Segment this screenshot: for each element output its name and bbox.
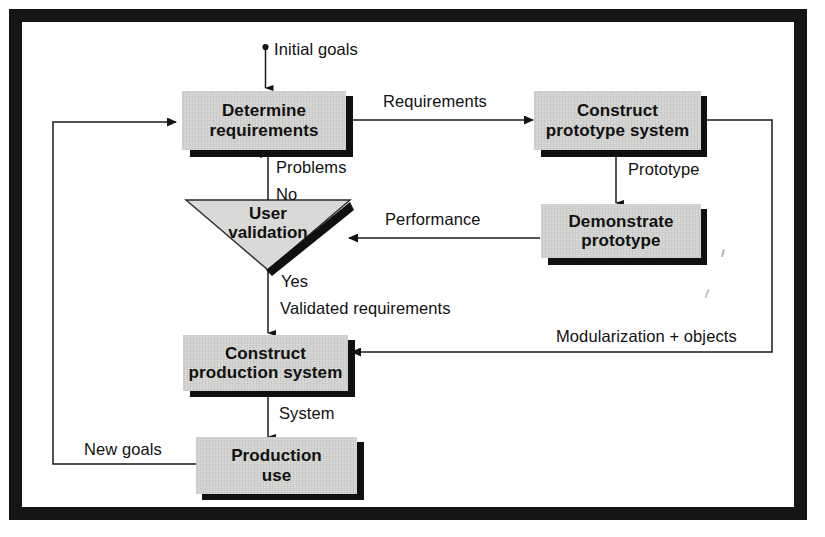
determine-requirements-line2: requirements [210, 121, 319, 140]
node-construct-prototype-system[interactable]: Construct prototype system [534, 91, 701, 150]
node-production-use-label: Production use [227, 446, 326, 484]
node-construct-prototype-system-label: Construct prototype system [542, 101, 693, 139]
construct-prototype-shadow-right [700, 96, 707, 157]
construct-prototype-line2: prototype system [546, 121, 689, 140]
demonstrate-prototype-line1: Demonstrate [568, 212, 673, 231]
edge-label-new-goals: New goals [84, 440, 162, 459]
determine-requirements-shadow-right [346, 96, 353, 157]
edge-label-problems: Problems [276, 158, 347, 177]
edge-label-validated-requirements: Validated requirements [280, 299, 451, 318]
production-use-shadow [202, 493, 364, 500]
construct-production-line2: production system [189, 363, 343, 382]
node-user-validation-label: User validation [186, 204, 350, 242]
construct-production-shadow [190, 390, 355, 397]
construct-prototype-shadow [541, 150, 707, 157]
demonstrate-prototype-line2: prototype [581, 231, 660, 250]
node-user-validation[interactable]: User validation [186, 200, 350, 276]
edge-new-goals [53, 122, 197, 464]
edge-label-system: System [279, 404, 335, 423]
node-construct-production-system-label: Construct production system [185, 344, 347, 382]
edge-label-initial-goals: Initial goals [274, 40, 358, 59]
demonstrate-prototype-shadow-right [700, 209, 707, 265]
edge-label-modularization: Modularization + objects [556, 327, 737, 346]
node-production-use[interactable]: Production use [196, 437, 357, 494]
flowchart-page: Determine requirements Construct prototy… [0, 0, 825, 537]
node-determine-requirements-label: Determine requirements [206, 101, 323, 139]
edge-label-performance: Performance [385, 210, 481, 229]
edge-label-requirements: Requirements [383, 92, 487, 111]
node-construct-production-system[interactable]: Construct production system [183, 335, 348, 391]
construct-production-line1: Construct [225, 344, 306, 363]
construct-production-shadow-right [348, 340, 355, 397]
initial-goals-start-dot [262, 44, 268, 50]
edge-label-no: No [276, 185, 297, 204]
node-demonstrate-prototype[interactable]: Demonstrate prototype [541, 204, 701, 258]
user-validation-line1: User [249, 204, 287, 223]
determine-requirements-line1: Determine [222, 101, 306, 120]
node-determine-requirements[interactable]: Determine requirements [182, 91, 346, 150]
edge-label-yes: Yes [281, 272, 308, 291]
demonstrate-prototype-shadow [548, 258, 707, 265]
user-validation-line2: validation [228, 223, 307, 242]
edge-label-prototype: Prototype [628, 160, 700, 179]
node-demonstrate-prototype-label: Demonstrate prototype [564, 212, 677, 250]
production-use-line2: use [262, 466, 292, 485]
determine-requirements-shadow [190, 150, 353, 157]
production-use-line1: Production [231, 446, 322, 465]
construct-prototype-line1: Construct [577, 101, 658, 120]
diagram-canvas: Determine requirements Construct prototy… [0, 0, 825, 537]
production-use-shadow-right [357, 442, 364, 500]
